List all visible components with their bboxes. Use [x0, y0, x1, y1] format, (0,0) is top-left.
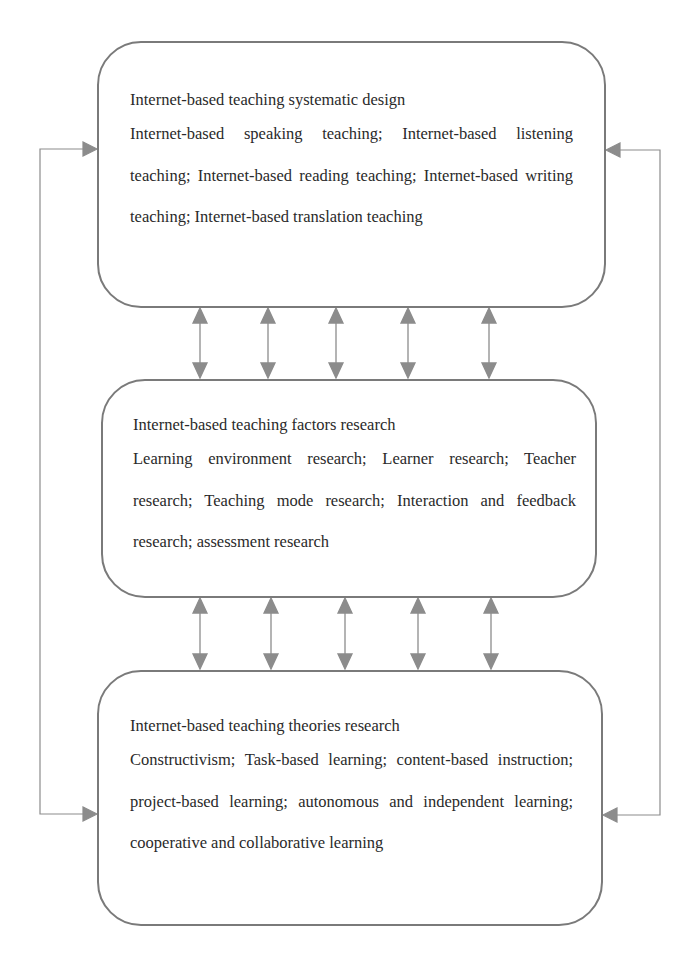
double-arrow-icon	[261, 308, 275, 378]
box-title: Internet-based teaching factors research	[133, 415, 395, 435]
double-arrow-icon	[329, 308, 343, 378]
arrow-left-icon	[606, 143, 620, 157]
double-arrow-icon	[264, 598, 278, 669]
systematic-design-box: Internet-based teaching systematic desig…	[97, 41, 606, 308]
double-arrow-icon	[193, 598, 207, 669]
box-title: Internet-based teaching theories researc…	[130, 716, 400, 736]
left-loop-connector	[40, 142, 97, 821]
double-arrow-icon	[411, 598, 425, 669]
arrow-left-icon	[603, 808, 617, 822]
box-body: Learning environment research; Learner r…	[133, 438, 576, 563]
factors-theories-arrows	[193, 598, 498, 669]
double-arrow-icon	[484, 598, 498, 669]
double-arrow-icon	[401, 308, 415, 378]
arrow-right-icon	[83, 142, 97, 156]
double-arrow-icon	[338, 598, 352, 669]
arrow-right-icon	[83, 807, 97, 821]
box-body: Internet-based speaking teaching; Intern…	[130, 113, 573, 238]
double-arrow-icon	[482, 308, 496, 378]
box-title: Internet-based teaching systematic desig…	[130, 90, 405, 110]
theories-research-box: Internet-based teaching theories researc…	[97, 670, 603, 926]
design-factors-arrows	[193, 308, 496, 378]
right-loop-connector	[603, 143, 660, 822]
factors-research-box: Internet-based teaching factors research…	[101, 379, 597, 598]
box-body: Constructivism; Task-based learning; con…	[130, 739, 573, 864]
double-arrow-icon	[193, 308, 207, 378]
